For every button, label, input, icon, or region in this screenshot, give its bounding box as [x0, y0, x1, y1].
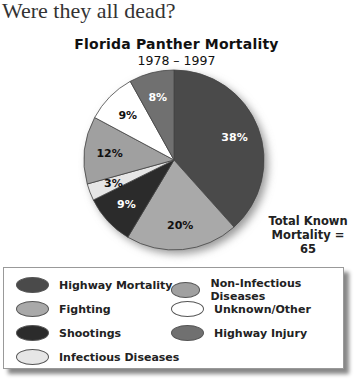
- legend-item-shootings: Shootings: [16, 325, 121, 341]
- pie-label: 20%: [167, 219, 193, 232]
- pie-label: 8%: [148, 91, 167, 104]
- legend-label: Non-Infectious Diseases: [210, 277, 343, 303]
- total-line-1: Total Known: [262, 214, 354, 228]
- legend-label: Unknown/Other: [214, 303, 311, 316]
- legend-item-fighting: Fighting: [16, 301, 111, 317]
- swatch-shootings: [16, 325, 49, 341]
- legend-item-highway-injury: Highway Injury: [171, 325, 307, 341]
- legend-item-unknown-other: Unknown/Other: [171, 301, 311, 317]
- pie-label: 12%: [96, 147, 122, 160]
- swatch-highway-mortality: [16, 277, 49, 293]
- legend-label: Shootings: [59, 327, 121, 340]
- swatch-unknown-other: [171, 301, 204, 317]
- swatch-non-infectious-diseases: [171, 282, 200, 298]
- total-line-2: Mortality = 65: [262, 228, 354, 256]
- swatch-highway-injury: [171, 325, 204, 341]
- legend-label: Highway Injury: [214, 327, 307, 340]
- pie-label: 9%: [117, 198, 136, 211]
- legend-item-non-infectious-diseases: Non-Infectious Diseases: [171, 277, 343, 303]
- legend-label: Infectious Diseases: [59, 351, 179, 364]
- legend-label: Highway Mortality: [59, 279, 173, 292]
- legend-label: Fighting: [59, 303, 111, 316]
- legend-item-infectious-diseases: Infectious Diseases: [16, 349, 179, 365]
- legend-item-highway-mortality: Highway Mortality: [16, 277, 173, 293]
- legend: Highway Mortality Fighting Shootings Inf…: [3, 267, 344, 369]
- total-annotation: Total Known Mortality = 65: [262, 214, 354, 256]
- swatch-infectious-diseases: [16, 349, 49, 365]
- pie-label: 9%: [118, 109, 137, 122]
- pie-label: 3%: [104, 177, 123, 190]
- pie-label: 38%: [221, 131, 247, 144]
- swatch-fighting: [16, 301, 49, 317]
